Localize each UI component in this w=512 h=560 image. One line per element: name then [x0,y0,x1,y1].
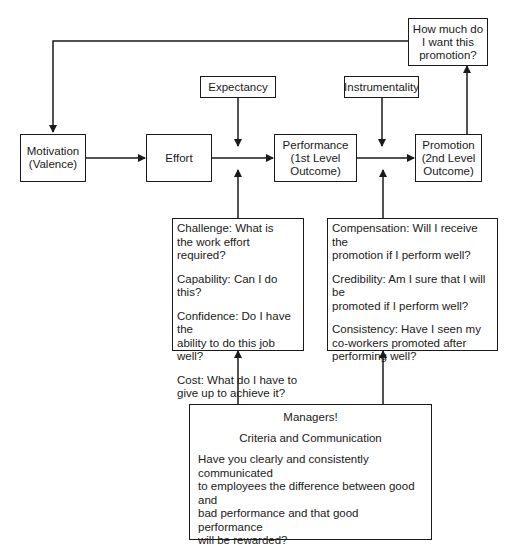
performance-line1: Performance [283,139,349,152]
performance-line3: Outcome) [290,165,341,178]
valence-question-line3: promotion? [419,49,477,62]
valence-question-line1: How much do [413,23,483,36]
valence-question-line2: I want this [422,36,474,49]
instrumentality-box: Instrumentality [344,76,419,98]
effort-box: Effort [146,134,212,182]
motivation-box: Motivation (Valence) [20,134,86,182]
question-credibility: Credibility: Am I sure that I will be pr… [332,273,493,314]
expectancy-label: Expectancy [208,81,267,94]
instrumentality-questions-box: Compensation: Will I receive the promoti… [327,218,498,351]
promotion-line2: (2nd Level [422,152,476,165]
managers-body: Have you clearly and consistently commun… [198,453,423,548]
question-cost: Cost: What do I have to give up to achie… [177,374,299,401]
motivation-line2: (Valence) [29,158,77,171]
expectancy-box: Expectancy [200,76,276,98]
managers-subtitle: Criteria and Communication [198,432,423,446]
effort-label: Effort [165,152,192,165]
question-consistency: Consistency: Have I seen my co-workers p… [332,323,493,364]
promotion-line3: Outcome) [423,165,474,178]
instrumentality-label: Instrumentality [344,81,419,94]
performance-box: Performance (1st Level Outcome) [274,134,357,182]
valence-question-box: How much do I want this promotion? [408,18,488,66]
question-confidence: Confidence: Do I have the ability to do … [177,310,299,364]
motivation-line1: Motivation [27,145,79,158]
promotion-box: Promotion (2nd Level Outcome) [415,134,482,182]
promotion-line1: Promotion [422,139,474,152]
managers-box: Managers! Criteria and Communication Hav… [189,404,432,540]
question-capability: Capability: Can I do this? [177,273,299,300]
question-challenge: Challenge: What is the work effort requi… [177,222,299,263]
performance-line2: (1st Level [291,152,341,165]
managers-title: Managers! [198,411,423,425]
question-compensation: Compensation: Will I receive the promoti… [332,222,493,263]
expectancy-questions-box: Challenge: What is the work effort requi… [172,218,304,351]
